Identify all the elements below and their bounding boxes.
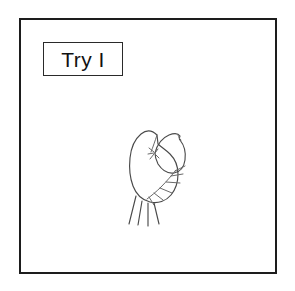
body-outline [130, 131, 178, 203]
lower-legs [129, 196, 159, 226]
trial-label-box: Try I [43, 42, 123, 76]
trial-label-text: Try I [61, 49, 105, 70]
drawing-frame: Try I [19, 18, 277, 274]
page-canvas: Try I [0, 0, 295, 291]
head-body-joint [148, 148, 159, 159]
insect-sketch [105, 108, 205, 228]
insect-sketch-svg [105, 108, 205, 228]
